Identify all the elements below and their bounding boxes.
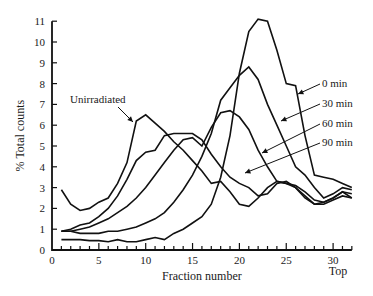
y-tick-label: 8 bbox=[40, 78, 46, 90]
curve-60-min bbox=[61, 111, 351, 232]
annotation-label: 0 min bbox=[322, 77, 348, 89]
y-axis-label: % Total counts bbox=[13, 99, 27, 171]
y-tick-label: 0 bbox=[40, 244, 46, 256]
x-tick-label: 5 bbox=[96, 254, 102, 266]
annotation-arrow bbox=[281, 104, 320, 121]
y-tick-label: 6 bbox=[40, 119, 46, 131]
x-tick-label: 0 bbox=[49, 254, 55, 266]
x-axis-label: Fraction number bbox=[162, 269, 242, 283]
x-tick-label: 25 bbox=[281, 254, 293, 266]
y-tick-label: 3 bbox=[40, 182, 46, 194]
y-tick-label: 2 bbox=[40, 202, 46, 214]
annotation-arrow bbox=[262, 124, 320, 153]
y-tick-label: 11 bbox=[34, 15, 45, 27]
chart-svg: 01234567891011051015202530Fraction numbe… bbox=[0, 0, 373, 296]
y-tick-label: 1 bbox=[40, 223, 46, 235]
annotation-label: 90 min bbox=[322, 136, 353, 148]
annotation-label: Unirradiated bbox=[70, 93, 126, 105]
y-tick-label: 7 bbox=[40, 98, 46, 110]
x-tick-label: 15 bbox=[187, 254, 199, 266]
y-tick-label: 10 bbox=[34, 36, 46, 48]
annotation-label: 60 min bbox=[322, 117, 353, 129]
sedimentation-chart: 01234567891011051015202530Fraction numbe… bbox=[0, 0, 373, 296]
annotation-label: 30 min bbox=[322, 97, 353, 109]
y-tick-label: 9 bbox=[40, 57, 46, 69]
y-tick-label: 5 bbox=[40, 140, 46, 152]
x-tick-label: 20 bbox=[234, 254, 246, 266]
x-tick-label: 10 bbox=[140, 254, 152, 266]
curve-unirradiated bbox=[61, 115, 351, 211]
top-label: Top bbox=[329, 264, 348, 278]
y-tick-label: 4 bbox=[40, 161, 46, 173]
